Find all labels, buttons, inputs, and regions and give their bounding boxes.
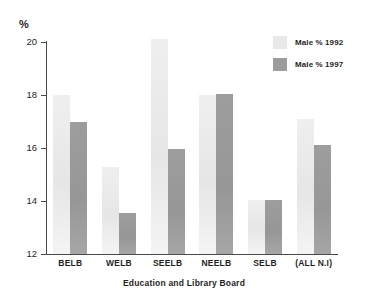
y-axis-tick-label: 18 [15,90,37,100]
bar [151,39,168,254]
bar [199,95,216,254]
bar [248,200,265,254]
legend-swatch-icon-1997 [273,58,287,71]
y-axis-tick-label: 16 [15,143,37,153]
plot-area [46,42,338,254]
y-axis-unit-label: % [19,18,29,30]
bar [216,94,233,254]
legend-label-1997: Male % 1997 [295,60,343,69]
y-axis-tick [41,254,46,255]
bar [297,119,314,254]
x-axis-title: Education and Library Board [0,278,368,288]
legend-swatch-icon-1992 [273,36,287,49]
bar [102,167,119,254]
bar [168,149,185,254]
legend-label-1992: Male % 1992 [295,38,343,47]
y-axis-tick-label: 12 [15,249,37,259]
bar-chart: % 1214161820 BELBWELBSEELBNEELBSELB(ALL … [0,0,368,298]
x-axis-category-label: (ALL N.I) [284,258,344,268]
bar [265,200,282,254]
x-axis-line [46,254,338,255]
bar [314,145,331,254]
bar [70,122,87,255]
y-axis-tick-label: 14 [15,196,37,206]
y-axis-tick-label: 20 [15,37,37,47]
bar [53,95,70,254]
bar [119,213,136,254]
